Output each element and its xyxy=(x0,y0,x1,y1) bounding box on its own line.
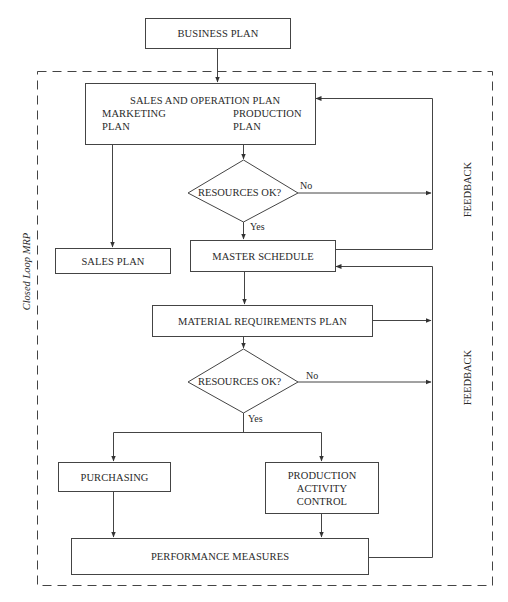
marketing-line1: MARKETING xyxy=(102,107,166,120)
performance-measures-box: PERFORMANCE MEASURES xyxy=(71,538,369,575)
decision-2-no-label: No xyxy=(306,370,318,381)
sales-operation-plan-box: SALES AND OPERATION PLAN MARKETING PLAN … xyxy=(85,83,316,145)
sop-title: SALES AND OPERATION PLAN xyxy=(130,94,280,107)
decision-1-no-label: No xyxy=(300,180,312,191)
business-plan-box: BUSINESS PLAN xyxy=(145,18,291,49)
purchasing-label: PURCHASING xyxy=(80,471,148,484)
master-schedule-box: MASTER SCHEDULE xyxy=(190,240,336,272)
business-plan-label: BUSINESS PLAN xyxy=(178,27,259,40)
production-line1: PRODUCTION xyxy=(233,107,302,120)
sales-plan-label: SALES PLAN xyxy=(81,255,144,268)
purchasing-box: PURCHASING xyxy=(58,462,171,492)
production-activity-control-box: PRODUCTION ACTIVITY CONTROL xyxy=(265,462,379,514)
decision-2-yes-label: Yes xyxy=(248,413,263,424)
master-schedule-label: MASTER SCHEDULE xyxy=(212,250,314,263)
production-line2: PLAN xyxy=(233,120,261,133)
performance-measures-label: PERFORMANCE MEASURES xyxy=(151,550,289,563)
feedback-label-lower: FEEDBACK xyxy=(462,338,473,418)
decision-2-label: RESOURCES OK? xyxy=(198,376,281,387)
pac-line1: PRODUCTION xyxy=(288,469,357,482)
marketing-line2: PLAN xyxy=(102,120,130,133)
closed-loop-mrp-label: Closed Loop MRP xyxy=(21,232,32,312)
material-requirements-plan-box: MATERIAL REQUIREMENTS PLAN xyxy=(152,305,373,337)
closed-loop-mrp-diagram: BUSINESS PLAN SALES AND OPERATION PLAN M… xyxy=(0,0,508,602)
feedback-loop-upper xyxy=(316,99,433,250)
decision-1-yes-label: Yes xyxy=(250,221,265,232)
mrp-label: MATERIAL REQUIREMENTS PLAN xyxy=(178,315,347,328)
decision-1-label: RESOURCES OK? xyxy=(198,187,281,198)
pac-line2: ACTIVITY xyxy=(297,482,347,495)
sales-plan-box: SALES PLAN xyxy=(55,248,171,274)
feedback-label-upper: FEEDBACK xyxy=(462,150,473,230)
pac-line3: CONTROL xyxy=(297,495,347,508)
